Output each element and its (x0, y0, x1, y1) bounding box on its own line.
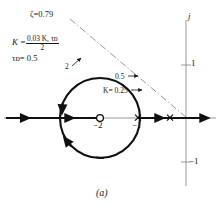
derivative-time-label: τᴅ= 0.5 (12, 54, 37, 63)
gain-formula-denominator: 2 (26, 43, 59, 52)
leader-arrow-gain-2 (72, 58, 81, 66)
gain-formula-lead: K = (12, 37, 26, 47)
damping-ratio-line (70, 19, 187, 118)
gain-label-0-25: K= 0.25 (103, 87, 128, 95)
gain-formula-numerator: 0.03 Kₑ τᴅ (26, 35, 59, 43)
imag-axis-tick-label-minus1: −1 (189, 157, 199, 166)
gain-label-2: 2 (65, 63, 69, 71)
real-axis-tick-label-minus1: −1 (132, 121, 142, 130)
figure-caption: (a) (96, 188, 108, 198)
imaginary-axis-label: j (188, 12, 191, 21)
gain-formula-label: K =0.03 Kₑ τᴅ2 (12, 35, 59, 52)
imag-axis-tick-label-plus1: 1 (191, 59, 196, 68)
circle-arrow-bottom (96, 157, 104, 158)
root-locus-plot (0, 0, 219, 216)
zeta-dash-dot-line (70, 19, 187, 118)
real-axis-tick-label-minus2: −2 (93, 121, 103, 130)
root-locus-figure: ζ=0.79 K =0.03 Kₑ τᴅ2 τᴅ= 0.5 2 0.5 K= 0… (0, 0, 219, 216)
gain-label-0-5: 0.5 (115, 73, 124, 81)
damping-ratio-label: ζ=0.79 (30, 10, 53, 19)
gain-formula-fraction: 0.03 Kₑ τᴅ2 (26, 35, 59, 52)
